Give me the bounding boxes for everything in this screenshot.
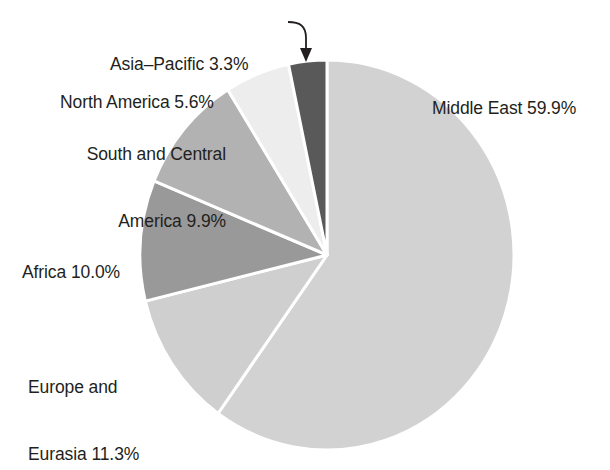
pie-chart: Middle East 59.9% Asia–Pacific 3.3% Nort… [0, 0, 610, 470]
slice-label-middle-east: Middle East 59.9% [432, 52, 576, 164]
callout-leader-line [288, 22, 306, 50]
slice-label-europe-and-eurasia-line2: Eurasia 11.3% [28, 443, 139, 465]
slice-label-africa: Africa 10.0% [22, 216, 120, 328]
slice-label-europe-and-eurasia: Europe and Eurasia 11.3% [28, 331, 139, 470]
slice-label-south-and-central-america-line1: South and Central [30, 143, 226, 165]
slice-label-europe-and-eurasia-line1: Europe and [28, 376, 139, 398]
asia-pacific-callout [288, 22, 312, 62]
slice-label-africa-line1: Africa 10.0% [22, 261, 120, 283]
slice-label-middle-east-line1: Middle East 59.9% [432, 97, 576, 119]
